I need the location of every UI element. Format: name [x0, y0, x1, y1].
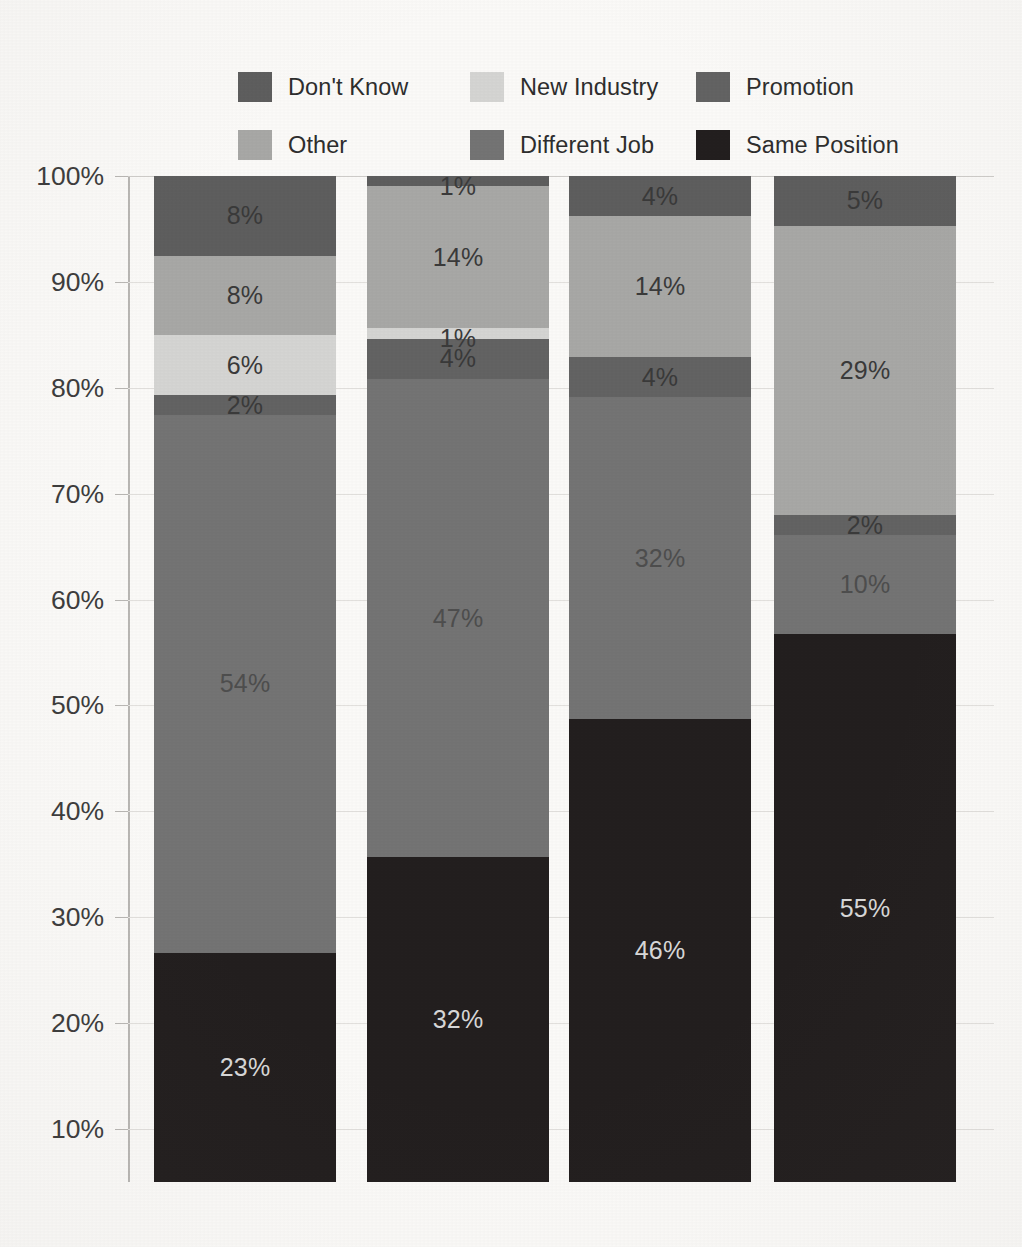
- bar-segment-value-label: 32%: [433, 1005, 484, 1034]
- legend-item-promotion[interactable]: Promotion: [696, 72, 928, 102]
- bar-segment-value-label: 4%: [440, 344, 477, 373]
- bar-segment-new-industry[interactable]: 6%: [154, 335, 336, 395]
- bars-group: 8%8%6%2%54%23%1%14%1%4%47%32%4%14%4%32%4…: [128, 176, 994, 1182]
- y-axis-tick-label: 20%: [0, 1008, 104, 1039]
- legend-swatch-different-job: [470, 130, 504, 160]
- bar-segment-value-label: 10%: [840, 570, 891, 599]
- legend-label: New Industry: [520, 74, 658, 101]
- bar-segment-value-label: 8%: [227, 201, 264, 230]
- bar-segment-promotion[interactable]: 4%: [569, 357, 751, 397]
- legend-item-new-industry[interactable]: New Industry: [470, 72, 696, 102]
- bar-segment-other[interactable]: 29%: [774, 226, 956, 515]
- y-tick-mark-20: [115, 1023, 128, 1024]
- legend-item-don-t-know[interactable]: Don't Know: [238, 72, 470, 102]
- bar-segment-value-label: 14%: [433, 243, 484, 272]
- bar-segment-same-position[interactable]: 46%: [569, 719, 751, 1182]
- bar-column[interactable]: 1%14%1%4%47%32%: [367, 176, 549, 1182]
- y-tick-mark-30: [115, 917, 128, 918]
- legend-item-other[interactable]: Other: [238, 130, 470, 160]
- y-axis-tick-label: 80%: [0, 372, 104, 403]
- legend-label: Different Job: [520, 132, 654, 159]
- y-tick-mark-40: [115, 811, 128, 812]
- y-axis-tick-label: 30%: [0, 902, 104, 933]
- bar-segment-value-label: 6%: [227, 351, 264, 380]
- y-tick-mark-100: [115, 176, 128, 177]
- bar-segment-value-label: 29%: [840, 356, 891, 385]
- legend-label: Promotion: [746, 74, 854, 101]
- bar-segment-promotion[interactable]: 2%: [154, 395, 336, 415]
- bar-segment-value-label: 5%: [847, 186, 884, 215]
- bar-segment-other[interactable]: 8%: [154, 256, 336, 336]
- y-axis-tick-label: 40%: [0, 796, 104, 827]
- y-axis-tick-label: 10%: [0, 1114, 104, 1145]
- y-tick-mark-90: [115, 282, 128, 283]
- y-tick-mark-80: [115, 388, 128, 389]
- bar-segment-value-label: 8%: [227, 281, 264, 310]
- bar-segment-same-position[interactable]: 32%: [367, 857, 549, 1182]
- legend-item-different-job[interactable]: Different Job: [470, 130, 696, 160]
- bar-segment-different-job[interactable]: 54%: [154, 415, 336, 953]
- y-tick-mark-60: [115, 600, 128, 601]
- bar-segment-other[interactable]: 14%: [367, 186, 549, 328]
- bar-segment-don-t-know[interactable]: 8%: [154, 176, 336, 256]
- y-axis-tick-label: 90%: [0, 266, 104, 297]
- bar-segment-value-label: 4%: [642, 182, 679, 211]
- legend-label: Same Position: [746, 132, 899, 159]
- bar-segment-value-label: 46%: [635, 936, 686, 965]
- bar-segment-value-label: 4%: [642, 363, 679, 392]
- legend-swatch-other: [238, 130, 272, 160]
- bar-segment-same-position[interactable]: 55%: [774, 634, 956, 1182]
- bar-segment-other[interactable]: 14%: [569, 216, 751, 357]
- legend-label: Don't Know: [288, 74, 408, 101]
- bar-segment-value-label: 47%: [433, 604, 484, 633]
- bar-column[interactable]: 8%8%6%2%54%23%: [154, 176, 336, 1182]
- bar-segment-different-job[interactable]: 47%: [367, 379, 549, 857]
- bar-column[interactable]: 5%29%2%10%55%: [774, 176, 956, 1182]
- y-axis-tick-label: 100%: [0, 161, 104, 192]
- bar-segment-value-label: 23%: [220, 1053, 271, 1082]
- bar-column[interactable]: 4%14%4%32%46%: [569, 176, 751, 1182]
- y-axis-tick-label: 50%: [0, 690, 104, 721]
- y-tick-mark-70: [115, 494, 128, 495]
- y-tick-mark-50: [115, 705, 128, 706]
- y-tick-mark-10: [115, 1129, 128, 1130]
- bar-segment-value-label: 14%: [635, 272, 686, 301]
- legend-label: Other: [288, 132, 347, 159]
- bar-segment-value-label: 32%: [635, 544, 686, 573]
- legend-swatch-dont-know: [238, 72, 272, 102]
- bar-segment-promotion[interactable]: 2%: [774, 515, 956, 535]
- bar-segment-don-t-know[interactable]: 5%: [774, 176, 956, 226]
- bar-segment-promotion[interactable]: 4%: [367, 339, 549, 380]
- stacked-bar-chart: Don't KnowNew IndustryPromotionOtherDiff…: [0, 0, 1022, 1247]
- plot-area: 100%90%80%70%60%50%40%30%20%10% 8%8%6%2%…: [128, 176, 994, 1182]
- bar-segment-don-t-know[interactable]: 4%: [569, 176, 751, 216]
- legend-swatch-new-industry: [470, 72, 504, 102]
- chart-legend: Don't KnowNew IndustryPromotionOtherDiff…: [238, 58, 928, 174]
- legend-item-same-position[interactable]: Same Position: [696, 130, 928, 160]
- bar-segment-same-position[interactable]: 23%: [154, 953, 336, 1182]
- bar-segment-value-label: 54%: [220, 669, 271, 698]
- bar-segment-different-job[interactable]: 32%: [569, 397, 751, 719]
- legend-swatch-promotion: [696, 72, 730, 102]
- bar-segment-new-industry[interactable]: 1%: [367, 328, 549, 338]
- y-axis-tick-label: 70%: [0, 478, 104, 509]
- y-axis-tick-label: 60%: [0, 584, 104, 615]
- legend-swatch-same-position: [696, 130, 730, 160]
- bar-segment-value-label: 55%: [840, 894, 891, 923]
- bar-segment-don-t-know[interactable]: 1%: [367, 176, 549, 186]
- bar-segment-different-job[interactable]: 10%: [774, 535, 956, 635]
